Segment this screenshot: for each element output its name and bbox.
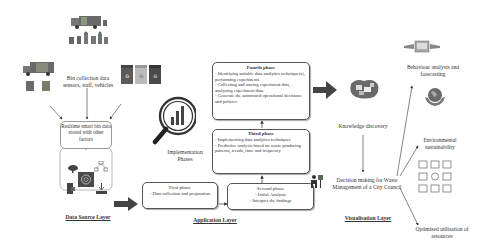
fourth-phase-line-3: - Generate the automated operational dec… bbox=[213, 93, 309, 104]
realtime-label: Realtime smart bin data stored with othe… bbox=[61, 122, 111, 142]
mobile-icon bbox=[67, 180, 75, 191]
environmental-sustainability-label: Environmental sustainability bbox=[412, 137, 468, 151]
network-icon bbox=[94, 158, 108, 169]
visualisation-layer-title: Visualisation Layer bbox=[333, 215, 403, 221]
data-source-layer-title: Data Source Layer bbox=[52, 214, 124, 220]
fourth-phase-line-2: - Collecting and storing experiment data… bbox=[213, 82, 309, 93]
decision-maker-icon bbox=[310, 174, 324, 189]
implementation-phases-label: Implementation Phases bbox=[160, 149, 210, 163]
garbage-truck-icon bbox=[69, 14, 109, 30]
recycling-bins-icon: ♻ ♻ ♻ bbox=[120, 63, 164, 85]
second-phase-box: Second phase - Initial Analysis - Interp… bbox=[227, 183, 314, 210]
resources-icon-grid bbox=[418, 160, 454, 194]
first-phase-box: First phase - Data collection and prepar… bbox=[142, 182, 218, 209]
environment-globe-icon bbox=[424, 87, 446, 107]
decision-making-label: Decision making for Waste Management of … bbox=[327, 177, 407, 191]
workers-icon bbox=[68, 31, 110, 45]
forecasting-icon bbox=[404, 39, 440, 52]
fourth-phase-box: Fourth phase - Identifying suitable data… bbox=[212, 62, 310, 120]
bin-collection-label: Bin collection data sensors, staff, vehi… bbox=[58, 75, 118, 89]
truck-icon bbox=[22, 60, 56, 76]
database-icon bbox=[78, 172, 94, 187]
realtime-box: Realtime smart bin data stored with othe… bbox=[60, 121, 112, 149]
fourth-phase-line-1: - Identifying suitable data analytics te… bbox=[213, 71, 309, 82]
download-icon bbox=[96, 180, 107, 191]
magnifier-chart-icon bbox=[152, 94, 196, 150]
bins-icon bbox=[25, 78, 53, 90]
third-phase-line-2: - Predictive analysis based on waste pro… bbox=[213, 143, 309, 154]
application-layer-title: Application Layer bbox=[180, 217, 250, 223]
first-phase-body: - Data collection and preparation bbox=[143, 191, 217, 197]
optimised-utilisation-label: Optimised utilisation of resources bbox=[410, 226, 474, 240]
knowledge-discovery-icon bbox=[348, 78, 380, 100]
behaviour-analysis-label: Behaviour analysis and forecasting bbox=[405, 64, 461, 78]
knowledge-discovery-label: Knowledge discovery bbox=[330, 123, 396, 130]
cloud-icon bbox=[67, 159, 79, 168]
third-phase-box: Third phase - Implementing data analytic… bbox=[212, 129, 310, 174]
second-phase-line-2: - Interpret the findings bbox=[228, 198, 313, 204]
